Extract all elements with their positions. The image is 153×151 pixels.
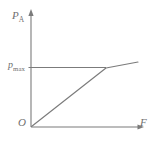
pmax-subscript: max	[13, 65, 25, 72]
x-axis-label: F	[140, 117, 147, 128]
y-axis-arrow-icon	[28, 9, 33, 16]
origin-label: O	[18, 117, 26, 128]
y-axis-symbol: P	[12, 9, 19, 21]
y-axis-subscript: A	[19, 15, 25, 24]
figure-container: PA pmax O F	[0, 0, 153, 151]
data-series-line	[32, 62, 139, 127]
y-axis-label: PA	[12, 10, 24, 24]
pmax-label: pmax	[8, 60, 25, 73]
